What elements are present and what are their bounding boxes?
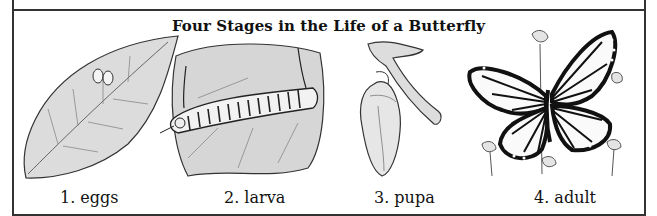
stage-label-larva: 2. larva: [224, 188, 285, 207]
leaf-with-eggs-icon: [18, 34, 178, 182]
stage-label-pupa: 3. pupa: [374, 188, 435, 207]
stage-label-adult: 4. adult: [534, 188, 596, 207]
stage-label-eggs: 1. eggs: [60, 188, 119, 207]
monarch-butterfly-icon: [462, 24, 632, 180]
top-divider: [12, 9, 644, 11]
chrysalis-on-branch-icon: [348, 36, 468, 182]
caterpillar-on-leaf-icon: [158, 38, 328, 180]
